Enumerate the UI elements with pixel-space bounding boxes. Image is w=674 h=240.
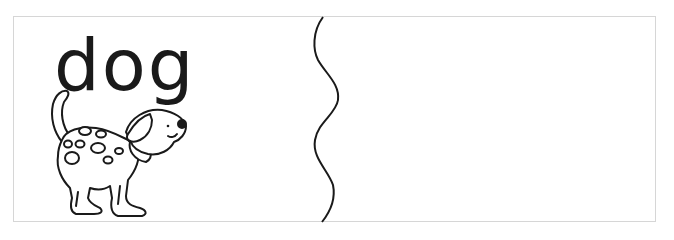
card-artwork (0, 0, 674, 240)
wavy-divider-line (314, 17, 338, 222)
dog-icon (52, 91, 186, 216)
